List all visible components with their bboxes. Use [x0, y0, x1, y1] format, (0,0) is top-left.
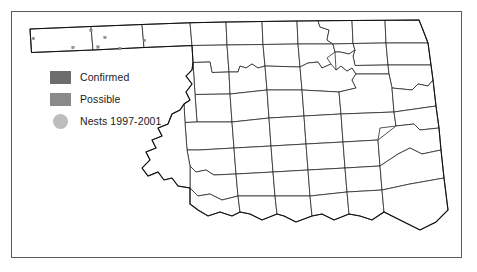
possible-swatch-icon [50, 93, 71, 106]
map-border-frame [11, 11, 462, 258]
screenshot-root: Confirmed Possible Nests 1997-2001 [0, 0, 477, 272]
legend-item-confirmed: Confirmed [50, 68, 220, 87]
legend-item-nests: Nests 1997-2001 [50, 112, 220, 131]
confirmed-swatch-icon [50, 71, 71, 84]
legend-item-possible: Possible [50, 90, 220, 109]
map-legend: Confirmed Possible Nests 1997-2001 [50, 68, 220, 134]
legend-label-possible: Possible [80, 94, 121, 105]
legend-label-confirmed: Confirmed [80, 72, 129, 83]
nests-circle-icon [53, 114, 68, 129]
legend-label-nests: Nests 1997-2001 [80, 116, 161, 127]
